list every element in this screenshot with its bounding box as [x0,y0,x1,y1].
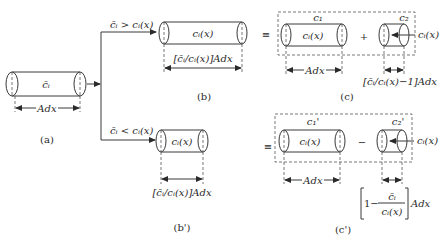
width-label-b: [c̄ᵢ/cᵢ(x)]Adx [173,53,232,64]
panel-c-prime-caption: (c') [335,224,351,235]
cylinder-c1-prime-label: cᵢ(x) [299,136,320,147]
width-label-a: Adx [36,103,57,114]
panel-b-prime: cᵢ(x) [c̄ᵢ/cᵢ(x)]Adx (b') [152,130,211,233]
c1-label: c₁ [313,12,323,23]
fraction-numerator: c̄ᵢ [388,191,396,202]
lower-branch-condition: c̄ᵢ < cᵢ(x) [110,125,154,136]
control-volume-diagram: c̄ᵢ Adx (a) c̄ᵢ > cᵢ(x) c̄ᵢ < cᵢ(x) cᵢ(x… [0,0,445,243]
c2-arrow-label: cᵢ(x) [418,29,439,40]
branch-arrows: c̄ᵢ > cᵢ(x) c̄ᵢ < cᵢ(x) [87,19,156,140]
plus-operator: + [360,31,368,42]
cylinder-b-prime-label: cᵢ(x) [171,136,192,147]
width-label-b-prime: [c̄ᵢ/cᵢ(x)]Adx [152,187,211,198]
width-label-c1-prime: Adx [302,175,323,186]
bracket-one-minus: 1− [364,198,379,209]
cylinder-b-label: cᵢ(x) [192,28,213,39]
panel-b-prime-caption: (b') [174,222,191,233]
panel-c-prime: c₁' cᵢ(x) − c₂' cᵢ(x) Adx [275,114,438,235]
width-label-c1: Adx [304,65,325,76]
cylinder-c1-label: cᵢ(x) [302,30,323,41]
c2-prime-label: c₂' [392,116,404,127]
equivalence-symbol-upper: ≡ [262,29,270,40]
width-label-c2: [c̄ᵢ/cᵢ(x)−1]Adx [363,76,437,87]
equivalence-symbol-lower: ≡ [264,141,272,152]
fraction-denominator: cᵢ(x) [381,206,402,217]
panel-a-caption: (a) [40,134,54,145]
c2-prime-arrow-label: cᵢ(x) [417,135,438,146]
panel-c-caption: (c) [340,91,354,102]
cylinder-a-label: c̄ᵢ [42,79,50,90]
width-label-c2-prime: 1− c̄ᵢ cᵢ(x) Adx [361,188,431,219]
c1-prime-label: c₁' [307,116,319,127]
c2-label: c₂ [399,12,409,23]
panel-c: c₁ cᵢ(x) + c₂ cᵢ(x) Adx [c̄ᵢ/cᵢ(x)−1]Ad [278,12,439,102]
fraction-suffix: Adx [410,198,431,209]
minus-operator: − [358,137,366,148]
upper-branch-condition: c̄ᵢ > cᵢ(x) [110,19,154,30]
panel-b: cᵢ(x) [c̄ᵢ/cᵢ(x)]Adx (b) [159,22,247,102]
panel-a: c̄ᵢ Adx (a) [6,72,86,145]
panel-b-caption: (b) [197,91,211,102]
